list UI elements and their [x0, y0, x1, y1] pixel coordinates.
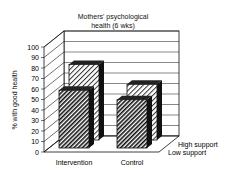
y-tick-label: 20 — [31, 128, 39, 135]
y-tick-label: 90 — [31, 54, 39, 61]
y-tick-label: 100 — [27, 44, 39, 51]
bar-chart-3d: 0102030405060708090100InterventionContro… — [0, 0, 226, 177]
y-tick-label: 30 — [31, 117, 39, 124]
y-tick-label: 60 — [31, 86, 39, 93]
y-tick-label: 0 — [35, 149, 39, 156]
bar-intervention-low-support — [59, 86, 94, 148]
y-tick-label: 10 — [31, 138, 39, 145]
y-tick-label: 40 — [31, 107, 39, 114]
legend-item: High support — [178, 141, 218, 149]
y-tick-label: 50 — [31, 96, 39, 103]
x-category-label: Intervention — [56, 159, 93, 166]
bar-control-low-support — [117, 96, 152, 148]
x-category-label: Control — [121, 159, 144, 166]
legend-item: Low support — [168, 149, 206, 157]
y-tick-label: 80 — [31, 65, 39, 72]
y-tick-label: 70 — [31, 75, 39, 82]
